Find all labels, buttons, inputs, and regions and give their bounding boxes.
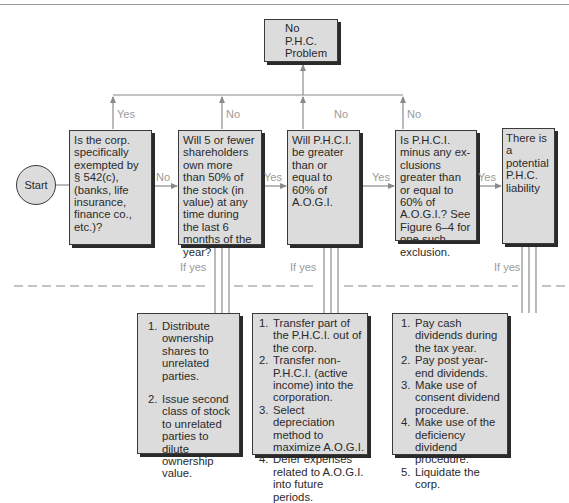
action-item: 4.Make use of the deficiency dividend pr… (401, 416, 503, 466)
exempt-yes-label: Yes (117, 108, 135, 120)
shareholders-yes-label: Yes (264, 171, 282, 183)
decision-phci-exclusions-box: Is P.H.C.I. minus any ex-clusions greate… (395, 130, 477, 241)
if-yes-label: If yes (180, 261, 206, 273)
phci-excl-no-label: No (407, 108, 421, 120)
decision-shareholders-box: Will 5 or fewer shareholders own more th… (178, 130, 262, 245)
if-yes-label: If yes (494, 261, 520, 273)
exempt-no-label: No (156, 171, 170, 183)
liability-text: There is a potential P.H.C. liability (506, 132, 551, 194)
action-item: 1.Pay cash dividends during the tax year… (401, 317, 503, 354)
shareholders-no-label: No (226, 108, 240, 120)
action-list: 1.Distribute ownership shares to unrelat… (148, 320, 233, 480)
income-actions-box: 1.Transfer part of the P.H.C.I. out of t… (252, 313, 368, 455)
decision-phci60-box: Will P.H.C.I. be greater than or equal t… (287, 130, 360, 245)
action-list: 1.Transfer part of the P.H.C.I. out of t… (259, 317, 365, 503)
action-item: 4.Defer expenses related to A.O.G.I. int… (259, 453, 365, 503)
start-node: Start (16, 165, 56, 205)
start-label: Start (24, 179, 47, 191)
action-item: 2.Transfer non-P.H.C.I. (active income) … (259, 354, 365, 404)
result-line: Problem (285, 47, 337, 60)
phc-liability-box: There is a potential P.H.C. liability (502, 128, 555, 244)
action-item: 2.Pay post year-end dividends. (401, 354, 503, 379)
phci60-no-label: No (334, 108, 348, 120)
decision-exempt-box: Is the corp. specifically exempted by § … (69, 130, 152, 245)
action-item: 2.Issue second class of stock to unrelat… (148, 393, 233, 480)
action-item: 3.Select depreciation method to maximize… (259, 404, 365, 454)
action-list: 1.Pay cash dividends during the tax year… (401, 317, 503, 491)
action-item: 5.Liquidate the corp. (401, 466, 503, 491)
action-item: 3.Make use of consent dividend procedure… (401, 379, 503, 416)
no-phc-problem-box: No P.H.C. Problem (264, 19, 338, 62)
action-item: 1.Distribute ownership shares to unrelat… (148, 320, 233, 382)
decision-text: Will 5 or fewer shareholders own more th… (183, 134, 257, 258)
phci-excl-yes-label: Yes (478, 171, 496, 183)
decision-text: Is the corp. specifically exempted by § … (74, 134, 147, 233)
result-line: P.H.C. (285, 35, 337, 48)
decision-text: Is P.H.C.I. minus any ex-clusions greate… (400, 134, 472, 258)
phci60-yes-label: Yes (372, 171, 390, 183)
action-item: 1.Transfer part of the P.H.C.I. out of t… (259, 317, 365, 354)
decision-text: Will P.H.C.I. be greater than or equal t… (292, 134, 355, 208)
ownership-actions-box: 1.Distribute ownership shares to unrelat… (137, 313, 240, 454)
dividend-actions-box: 1.Pay cash dividends during the tax year… (392, 313, 508, 455)
result-line: No (285, 22, 337, 35)
if-yes-label: If yes (290, 261, 316, 273)
